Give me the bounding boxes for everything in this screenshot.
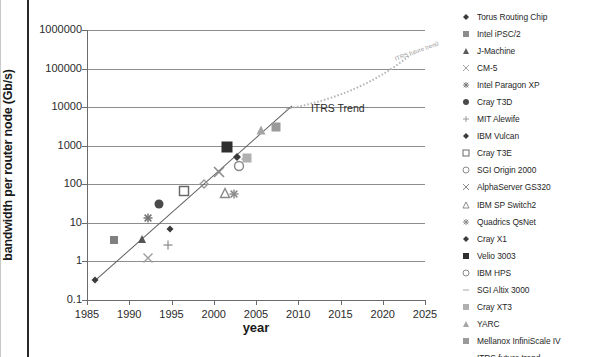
legend-item-label: IBM HPS bbox=[477, 268, 511, 278]
legend-item[interactable]: YARC bbox=[455, 316, 605, 333]
legend-marker-icon bbox=[455, 30, 477, 38]
legend-marker-icon bbox=[455, 81, 477, 89]
data-point bbox=[256, 125, 267, 136]
y-axis-line bbox=[87, 30, 88, 300]
data-point bbox=[142, 252, 153, 263]
data-point bbox=[229, 188, 240, 199]
y-tick-label: 1 bbox=[76, 254, 82, 266]
legend-item[interactable]: Cray X1 bbox=[455, 230, 605, 247]
legend-item[interactable]: Intel Paragon XP bbox=[455, 76, 605, 93]
legend-item[interactable]: Cray XT3 bbox=[455, 299, 605, 316]
legend-item[interactable]: SGI Altix 3000 bbox=[455, 282, 605, 299]
data-point bbox=[271, 122, 282, 133]
x-tick-label: 2025 bbox=[413, 308, 437, 320]
legend-item[interactable]: Velio 3003 bbox=[455, 247, 605, 264]
legend-marker-icon bbox=[455, 64, 477, 72]
x-tick bbox=[425, 300, 426, 305]
legend-item-label: Cray T3D bbox=[477, 97, 512, 107]
plot-background bbox=[87, 30, 425, 300]
legend-item-label: Cray X1 bbox=[477, 234, 507, 244]
grid-line bbox=[87, 223, 425, 224]
legend-marker-icon bbox=[455, 47, 477, 55]
legend-item-label: Mellanox InfiniScale IV bbox=[477, 336, 561, 346]
data-point bbox=[179, 186, 190, 197]
legend-item-label: Intel iPSC/2 bbox=[477, 29, 521, 39]
grid-line bbox=[87, 184, 425, 185]
chart-legend: Torus Routing ChipIntel iPSC/2J-MachineC… bbox=[455, 8, 605, 357]
legend-item[interactable]: IBM SP Switch2 bbox=[455, 196, 605, 213]
y-tick-label: 100 bbox=[64, 177, 82, 189]
legend-marker-icon bbox=[455, 303, 477, 311]
legend-item[interactable]: AlphaServer GS320 bbox=[455, 179, 605, 196]
legend-item-label: MIT Alewife bbox=[477, 114, 520, 124]
y-tick-label: 100000 bbox=[45, 62, 82, 74]
y-tick-label: 10 bbox=[70, 216, 82, 228]
legend-item-label: SGI Altix 3000 bbox=[477, 285, 529, 295]
data-point bbox=[163, 239, 174, 250]
legend-item-label: Quadrics QsNet bbox=[477, 217, 536, 227]
data-point bbox=[153, 199, 164, 210]
data-point bbox=[142, 213, 153, 224]
legend-item-label: Intel Paragon XP bbox=[477, 80, 540, 90]
chart-plot-area: 0.11101001000100001000001000000 19851990… bbox=[87, 30, 425, 300]
y-tick-label: 1000000 bbox=[39, 23, 82, 35]
x-tick-label: 1990 bbox=[117, 308, 141, 320]
legend-item-label: AlphaServer GS320 bbox=[477, 182, 551, 192]
x-axis-line bbox=[87, 300, 425, 301]
legend-marker-icon bbox=[455, 13, 477, 21]
legend-item[interactable]: SGI Origin 2000 bbox=[455, 162, 605, 179]
legend-item[interactable]: Quadrics QsNet bbox=[455, 213, 605, 230]
legend-item[interactable]: Intel iPSC/2 bbox=[455, 25, 605, 42]
legend-item[interactable]: IBM HPS bbox=[455, 264, 605, 281]
legend-marker-icon bbox=[455, 350, 477, 357]
x-axis-title: year bbox=[87, 320, 425, 335]
x-tick-label: 2005 bbox=[244, 308, 268, 320]
legend-item[interactable]: MIT Alewife bbox=[455, 111, 605, 128]
data-point bbox=[213, 166, 225, 178]
legend-marker-icon bbox=[455, 183, 477, 191]
data-point bbox=[109, 235, 119, 245]
legend-item-label: SGI Origin 2000 bbox=[477, 165, 536, 175]
legend-item-label: ITRS future trend bbox=[477, 353, 540, 357]
x-tick-label: 1995 bbox=[159, 308, 183, 320]
legend-item-label: IBM SP Switch2 bbox=[477, 200, 536, 210]
grid-line bbox=[87, 30, 425, 31]
data-point bbox=[199, 179, 209, 189]
legend-marker-icon bbox=[455, 269, 477, 277]
data-point bbox=[221, 140, 234, 153]
legend-item[interactable]: Torus Routing Chip bbox=[455, 8, 605, 25]
legend-marker-icon bbox=[455, 149, 477, 157]
grid-line bbox=[87, 107, 425, 108]
legend-item-label: Velio 3003 bbox=[477, 251, 516, 261]
x-tick-label: 1985 bbox=[75, 308, 99, 320]
legend-marker-icon bbox=[455, 320, 477, 328]
grid-line bbox=[87, 69, 425, 70]
itrs-trend-annotation: ITRS Trend bbox=[311, 102, 365, 114]
grid-line bbox=[87, 261, 425, 262]
x-tick-label: 2015 bbox=[328, 308, 352, 320]
legend-marker-icon bbox=[455, 286, 477, 294]
legend-item[interactable]: J-Machine bbox=[455, 42, 605, 59]
legend-item[interactable]: ITRS future trend bbox=[455, 350, 605, 357]
legend-item[interactable]: Cray T3D bbox=[455, 93, 605, 110]
legend-marker-icon bbox=[455, 115, 477, 123]
data-point bbox=[165, 225, 174, 234]
legend-item[interactable]: IBM Vulcan bbox=[455, 128, 605, 145]
y-tick-label: 0.1 bbox=[67, 293, 82, 305]
legend-marker-icon bbox=[455, 201, 477, 209]
legend-item-label: Cray T3E bbox=[477, 148, 512, 158]
legend-marker-icon bbox=[455, 235, 477, 243]
data-point bbox=[241, 153, 252, 164]
x-tick-label: 2020 bbox=[371, 308, 395, 320]
grid-line bbox=[87, 146, 425, 147]
x-tick-label: 2000 bbox=[202, 308, 226, 320]
legend-item[interactable]: CM-5 bbox=[455, 59, 605, 76]
legend-item-label: J-Machine bbox=[477, 46, 515, 56]
legend-item[interactable]: Mellanox InfiniScale IV bbox=[455, 333, 605, 350]
legend-item-label: CM-5 bbox=[477, 63, 497, 73]
legend-item[interactable]: Cray T3E bbox=[455, 145, 605, 162]
data-point bbox=[91, 275, 100, 284]
legend-marker-icon bbox=[455, 98, 477, 106]
legend-item-label: IBM Vulcan bbox=[477, 131, 519, 141]
y-tick-label: 10000 bbox=[51, 100, 82, 112]
